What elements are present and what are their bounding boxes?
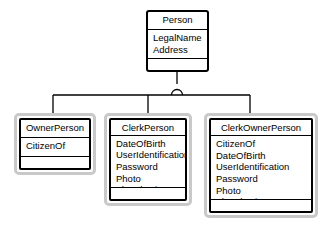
- class-box-ownerperson[interactable]: OwnerPerson CitizenOf: [14, 113, 96, 175]
- class-name-ownerperson: OwnerPerson: [21, 120, 89, 138]
- operations-person: [148, 59, 207, 70]
- class-box-clerkownerperson[interactable]: ClerkOwnerPerson CitizenOf DateOfBirth U…: [204, 113, 318, 218]
- attribute-item: Password: [216, 173, 309, 185]
- class-name-person: Person: [148, 12, 207, 30]
- attribute-item: DateOfBirth: [116, 138, 183, 150]
- class-box-clerkperson[interactable]: ClerkPerson DateOfBirth UserIdentificati…: [104, 113, 192, 206]
- operations-clerkownerperson: [211, 200, 311, 211]
- attribute-item: Address: [153, 44, 205, 56]
- operations-clerkperson: [111, 188, 185, 199]
- diagram-canvas: Person LegalName Address OwnerPerson Cit…: [0, 0, 329, 226]
- attributes-clerkownerperson: CitizenOf DateOfBirth UserIdentification…: [211, 136, 311, 200]
- attribute-item: LegalName: [153, 32, 205, 44]
- attribute-item: UserIdentification: [216, 161, 309, 173]
- operations-ownerperson: [21, 157, 89, 168]
- attribute-item: UserIdentification: [116, 149, 183, 161]
- class-box-person[interactable]: Person LegalName Address: [146, 10, 209, 72]
- attribute-item: Password: [116, 161, 183, 173]
- attribute-item: CitizenOf: [216, 138, 309, 150]
- class-name-clerkperson: ClerkPerson: [111, 120, 185, 136]
- attribute-item: CitizenOf: [26, 140, 87, 152]
- attribute-item: Photo: [116, 173, 183, 185]
- attributes-clerkperson: DateOfBirth UserIdentification Password …: [111, 136, 185, 188]
- attributes-ownerperson: CitizenOf: [21, 138, 89, 157]
- attributes-person: LegalName Address: [148, 30, 207, 59]
- attribute-item: DateOfBirth: [216, 150, 309, 162]
- class-name-clerkownerperson: ClerkOwnerPerson: [211, 120, 311, 136]
- attribute-item: Photo: [216, 185, 309, 197]
- generalization-arc-icon: [172, 90, 183, 96]
